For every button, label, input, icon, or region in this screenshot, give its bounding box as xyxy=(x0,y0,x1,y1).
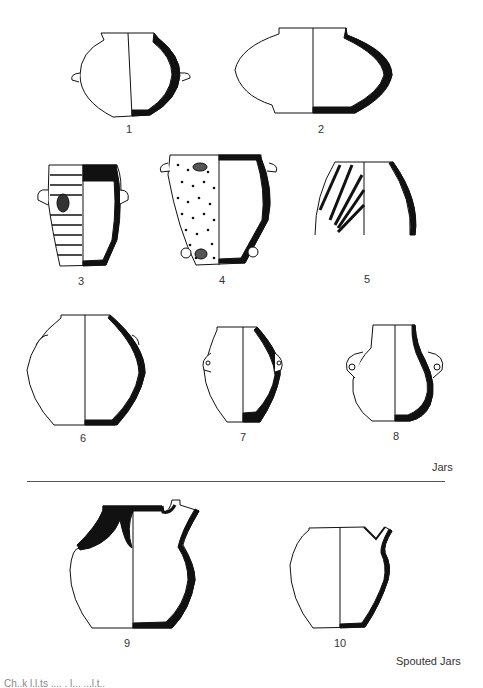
section-title-spouted-jars: Spouted Jars xyxy=(396,655,461,667)
vessel-label-9: 9 xyxy=(124,637,130,649)
vessel-8 xyxy=(346,325,442,421)
clipped-caption: Ch..k l.l.ts .... . l... ...l.t.. xyxy=(4,678,105,688)
vessel-label-4: 4 xyxy=(219,274,225,286)
vessel-label-1: 1 xyxy=(126,123,132,135)
vessel-3 xyxy=(38,165,129,266)
vessel-1 xyxy=(72,33,190,117)
section-divider xyxy=(27,481,445,482)
pottery-drawings xyxy=(0,0,483,688)
vessel-label-6: 6 xyxy=(80,432,86,444)
vessel-9 xyxy=(70,500,199,628)
vessel-label-10: 10 xyxy=(334,637,346,649)
vessel-4 xyxy=(160,155,276,265)
vessel-2 xyxy=(235,28,392,113)
vessel-label-5: 5 xyxy=(364,273,370,285)
vessel-label-8: 8 xyxy=(393,430,399,442)
vessel-7 xyxy=(203,327,282,422)
vessel-6 xyxy=(27,315,145,425)
section-title-jars: Jars xyxy=(432,461,453,473)
vessel-label-2: 2 xyxy=(318,123,324,135)
vessel-label-3: 3 xyxy=(78,275,84,287)
vessel-label-7: 7 xyxy=(240,431,246,443)
vessel-10 xyxy=(290,527,392,628)
vessel-5 xyxy=(315,162,416,235)
